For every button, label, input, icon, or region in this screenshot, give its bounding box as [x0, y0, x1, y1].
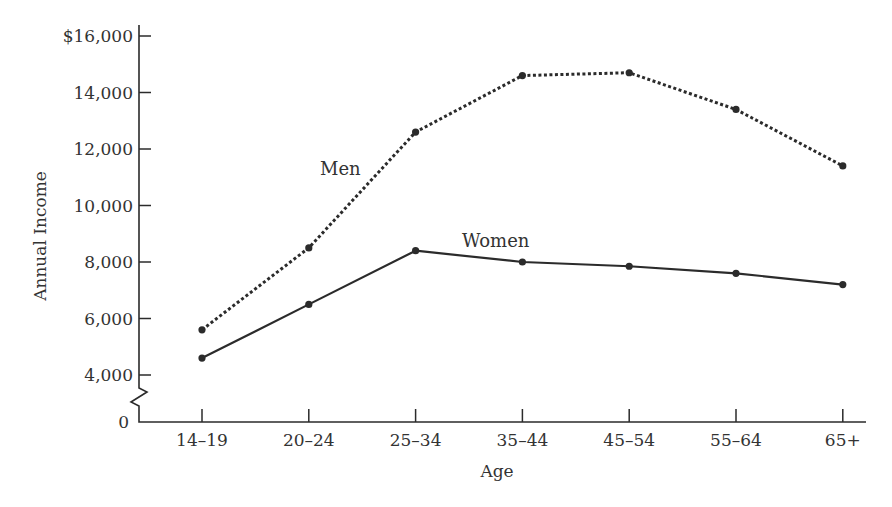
data-point-women	[412, 247, 419, 254]
data-point-men	[305, 244, 312, 251]
x-tick-label: 65+	[825, 430, 861, 450]
data-point-men	[626, 69, 633, 76]
series-line-women	[202, 251, 843, 358]
data-point-men	[198, 326, 205, 333]
series-label-men: Men	[320, 158, 361, 179]
axes	[131, 25, 866, 422]
data-point-women	[519, 258, 526, 265]
y-tick-label: 12,000	[74, 139, 133, 159]
data-point-women	[839, 281, 846, 288]
data-point-women	[732, 270, 739, 277]
axis-lines	[131, 25, 866, 422]
y-tick-label: 8,000	[84, 252, 133, 272]
y-axis-ticks: $16,00014,00012,00010,0008,0006,0004,000	[63, 26, 151, 385]
y-tick-label: 14,000	[74, 83, 133, 103]
x-tick-label: 20–24	[283, 430, 335, 450]
y-axis-title: Annual Income	[30, 171, 50, 302]
data-point-women	[305, 301, 312, 308]
x-tick-label: 35–44	[497, 430, 549, 450]
data-point-men	[519, 72, 526, 79]
data-point-men	[839, 162, 846, 169]
data-point-men	[412, 128, 419, 135]
x-tick-label: 14–19	[176, 430, 228, 450]
data-series	[198, 69, 846, 362]
y-tick-label: $16,000	[63, 26, 133, 46]
data-point-women	[198, 354, 205, 361]
x-axis-title: Age	[479, 461, 513, 481]
x-tick-label: 55–64	[710, 430, 762, 450]
line-chart: $16,00014,00012,00010,0008,0006,0004,000…	[0, 0, 892, 507]
y-tick-label: 6,000	[84, 309, 133, 329]
x-tick-label: 25–34	[390, 430, 442, 450]
series-line-men	[202, 73, 843, 330]
series-label-women: Women	[462, 230, 530, 251]
x-tick-label: 45–54	[603, 430, 655, 450]
y-tick-label: 4,000	[84, 365, 133, 385]
y-tick-label-zero: 0	[118, 412, 129, 432]
data-point-men	[732, 106, 739, 113]
y-tick-label: 10,000	[74, 196, 133, 216]
x-axis-ticks: 14–1920–2425–3435–4445–5455–6465+	[176, 409, 861, 450]
data-point-women	[626, 263, 633, 270]
